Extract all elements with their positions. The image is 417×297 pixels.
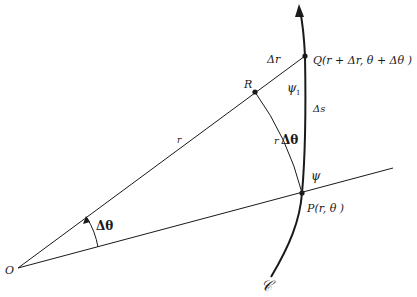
label-delta-s: Δs <box>312 103 325 114</box>
label-psi1-sub: 1 <box>296 89 300 97</box>
polar-diagram: O P(r, θ ) R Q(r + Δr, θ + Δθ ) r Δr r Δ… <box>0 0 417 297</box>
label-r-delta-theta: Δθ <box>281 133 298 147</box>
point-r <box>252 89 257 94</box>
label-r-delta-theta-r: r <box>274 135 280 146</box>
label-psi: ψ <box>311 169 321 183</box>
label-o: O <box>5 264 14 277</box>
point-q <box>302 53 307 58</box>
label-curve-c: 𝒞 <box>261 277 276 295</box>
label-delta-r: Δr <box>266 53 281 66</box>
ray-oq <box>18 56 305 268</box>
label-q: Q(r + Δr, θ + Δθ ) <box>313 54 412 67</box>
point-p <box>299 190 304 195</box>
label-r: r <box>177 135 182 145</box>
ray-op <box>18 168 393 268</box>
label-p: P(r, θ ) <box>306 202 344 215</box>
angle-arrow-icon <box>83 216 90 224</box>
label-r-point: R <box>243 78 252 91</box>
curve-arrow-icon <box>295 4 304 17</box>
label-delta-theta: Δθ <box>96 219 113 233</box>
